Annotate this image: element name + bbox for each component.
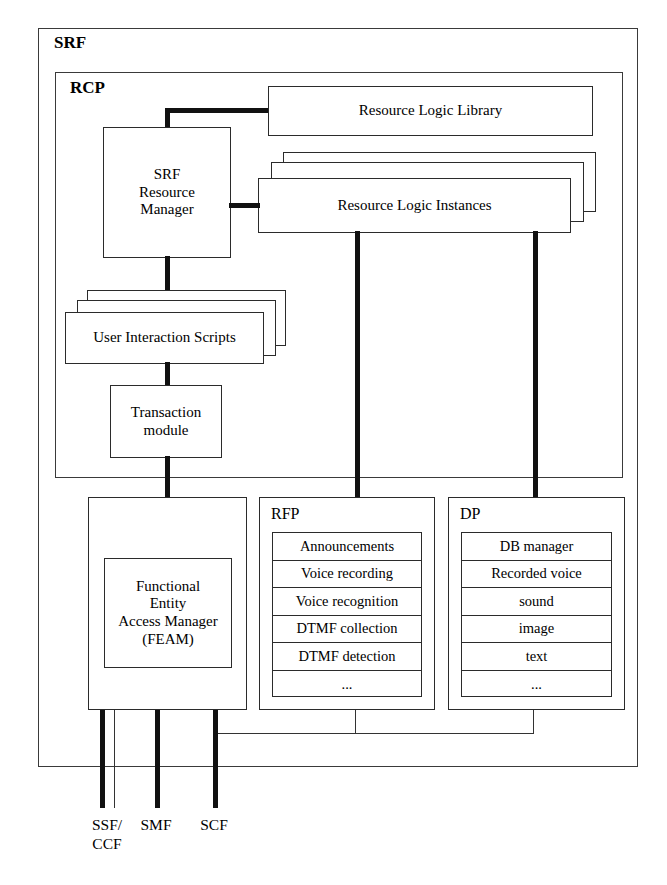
connector-scripts-to-transaction	[165, 362, 170, 386]
srf-resource-manager-box[interactable]: SRF Resource Manager	[103, 127, 231, 258]
dp-container-label: DP	[460, 505, 480, 523]
interface-line-ssf	[100, 710, 105, 808]
connector-srm-to-library-horizontal	[165, 108, 270, 113]
interface-line-smf	[155, 710, 160, 808]
dp-item[interactable]: Recorded voice	[462, 561, 611, 589]
dp-item[interactable]: DB manager	[462, 533, 611, 561]
dp-item[interactable]: ...	[462, 671, 611, 699]
user-interaction-scripts-box[interactable]: User Interaction Scripts	[65, 312, 264, 364]
rfp-container-label: RFP	[271, 505, 299, 523]
rfp-item[interactable]: DTMF detection	[273, 643, 421, 671]
rfp-item-list: AnnouncementsVoice recordingVoice recogn…	[272, 532, 422, 697]
dp-item[interactable]: text	[462, 643, 611, 671]
resource-logic-library-label: Resource Logic Library	[269, 87, 592, 135]
rfp-item[interactable]: Voice recognition	[273, 588, 421, 616]
feam-box[interactable]: Functional Entity Access Manager (FEAM)	[104, 558, 232, 668]
interface-label-smf: SMF	[132, 816, 180, 835]
dp-item[interactable]: image	[462, 616, 611, 644]
srf-resource-manager-label: SRF Resource Manager	[104, 128, 230, 257]
srf-container-label: SRF	[54, 33, 86, 53]
user-interaction-scripts-label: User Interaction Scripts	[66, 313, 263, 363]
resource-logic-instances-label: Resource Logic Instances	[259, 179, 570, 232]
diagram-canvas: SRF RCP Resource Logic Library SRF Resou…	[0, 0, 667, 885]
interface-label-ssf-ccf: SSF/ CCF	[78, 816, 136, 853]
connector-srm-to-instances	[229, 203, 260, 208]
dp-item[interactable]: sound	[462, 588, 611, 616]
feam-label: Functional Entity Access Manager (FEAM)	[105, 559, 231, 667]
rfp-item[interactable]: ...	[273, 671, 421, 699]
interface-line-ccf	[114, 710, 115, 808]
rfp-item[interactable]: Voice recording	[273, 561, 421, 589]
rcp-container-label: RCP	[70, 78, 105, 98]
rfp-item[interactable]: Announcements	[273, 533, 421, 561]
resource-logic-instances-box[interactable]: Resource Logic Instances	[258, 178, 571, 233]
transaction-module-box[interactable]: Transaction module	[110, 385, 222, 458]
connector-instances-to-rfp	[355, 231, 360, 498]
bus-drop-dp	[533, 710, 534, 734]
interface-line-scf	[213, 710, 218, 808]
connector-transaction-to-feam	[165, 456, 170, 498]
rfp-item[interactable]: DTMF collection	[273, 616, 421, 644]
bus-drop-rfp	[355, 710, 356, 734]
resource-logic-library-box[interactable]: Resource Logic Library	[268, 86, 593, 136]
interface-label-scf: SCF	[190, 816, 238, 835]
dp-item-list: DB managerRecorded voicesoundimagetext..…	[461, 532, 612, 697]
transaction-module-label: Transaction module	[111, 386, 221, 457]
bus-horizontal	[216, 733, 534, 734]
connector-instances-to-dp	[533, 231, 538, 498]
